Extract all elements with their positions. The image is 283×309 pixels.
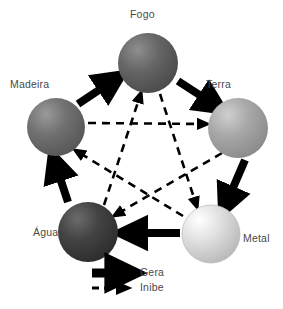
node-label-metal: Metal (243, 232, 270, 244)
diagram-canvas (0, 0, 283, 309)
generate-edge-madeira-fogo (78, 80, 114, 104)
node-sphere-metal[interactable] (182, 205, 240, 263)
node-label-agua: Água (33, 226, 58, 238)
node-sphere-madeira[interactable] (27, 98, 85, 156)
inhibit-edge-fogo-metal (160, 94, 196, 204)
legend-label-gera: Gera (140, 266, 164, 278)
node-sphere-terra[interactable] (208, 98, 268, 158)
generate-edge-terra-metal (226, 160, 245, 204)
legend-label-inibe: Inibe (140, 281, 164, 293)
node-sphere-fogo[interactable] (118, 33, 178, 93)
legend-group (92, 273, 126, 288)
inhibit-edge-agua-fogo (104, 96, 140, 205)
generate-edge-agua-madeira (55, 163, 68, 202)
node-label-terra: Terra (206, 78, 231, 90)
element-nodes-group (27, 33, 268, 263)
node-sphere-agua[interactable] (58, 202, 118, 262)
node-label-fogo: Fogo (130, 8, 155, 20)
inhibit-edge-terra-agua (117, 153, 222, 214)
inhibiting-cycle-group (78, 94, 222, 216)
wuxing-diagram: Fogo Madeira Terra Metal Água Gera Inibe (0, 0, 283, 309)
node-label-madeira: Madeira (10, 78, 49, 90)
inhibit-edge-madeira-terra (88, 123, 204, 124)
